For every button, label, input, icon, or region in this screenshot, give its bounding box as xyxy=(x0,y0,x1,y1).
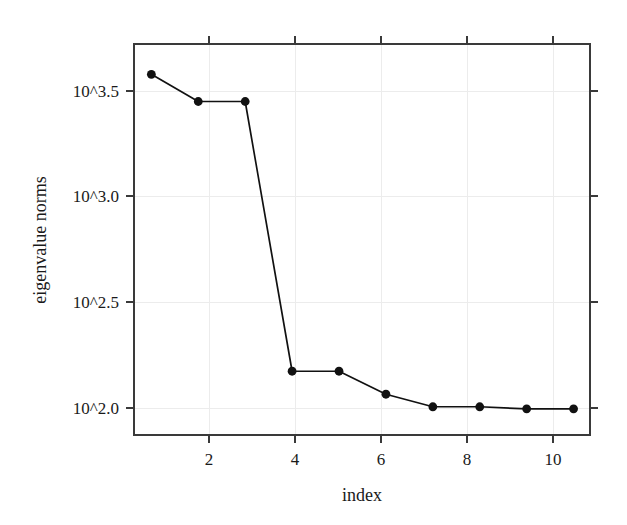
x-axis-title: index xyxy=(342,485,382,505)
x-tick-label-10: 10 xyxy=(545,450,562,469)
y-tick-label-2p0: 10^2.0 xyxy=(73,399,119,418)
x-tick-label-4: 4 xyxy=(291,450,300,469)
y-tick-label-3p5: 10^3.5 xyxy=(73,82,119,101)
data-point xyxy=(382,390,391,399)
data-point xyxy=(428,402,437,411)
data-point xyxy=(522,404,531,413)
x-tick-label-8: 8 xyxy=(463,450,472,469)
data-point xyxy=(147,70,156,79)
x-tick-labels: 2 4 6 8 10 xyxy=(205,450,562,469)
y-tick-label-2p5: 10^2.5 xyxy=(73,293,119,312)
x-tick-marks-top xyxy=(209,36,553,44)
y-axis-title: eigenvalue norms xyxy=(30,176,50,303)
y-tick-marks-left xyxy=(126,91,134,408)
data-point xyxy=(569,404,578,413)
y-tick-label-3p0: 10^3.0 xyxy=(73,187,119,206)
x-tick-marks-bottom xyxy=(209,435,553,443)
data-point xyxy=(335,367,344,376)
data-point xyxy=(475,402,484,411)
chart-page: 10^3.5 10^3.0 10^2.5 10^2.0 2 4 6 8 10 i… xyxy=(0,0,627,525)
y-tick-marks-right xyxy=(590,91,598,408)
data-point xyxy=(288,367,297,376)
data-point xyxy=(241,97,250,106)
y-tick-labels: 10^3.5 10^3.0 10^2.5 10^2.0 xyxy=(73,82,119,418)
x-tick-label-2: 2 xyxy=(205,450,214,469)
x-tick-label-6: 6 xyxy=(377,450,386,469)
data-point xyxy=(194,97,203,106)
eigenvalue-scree-plot: 10^3.5 10^3.0 10^2.5 10^2.0 2 4 6 8 10 i… xyxy=(0,0,627,525)
